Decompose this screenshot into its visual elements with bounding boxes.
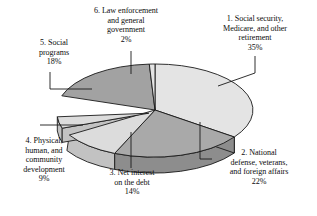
slice-label-4: 4. Physical, human, and community develo…: [2, 136, 86, 184]
slice-label-2: 2. National defense, veterans, and forei…: [205, 148, 313, 186]
slice-label-1: 1. Social security, Medicare, and other …: [203, 14, 307, 52]
slice-label-3: 3. Net interest on the debt 14%: [86, 168, 178, 197]
pie-chart-figure: 1. Social security, Medicare, and other …: [0, 0, 317, 216]
slice-label-6: 6. Law enforcement and general governmen…: [73, 6, 179, 44]
pie-top-caps: [57, 64, 253, 157]
slice-5-cap: [62, 64, 155, 110]
